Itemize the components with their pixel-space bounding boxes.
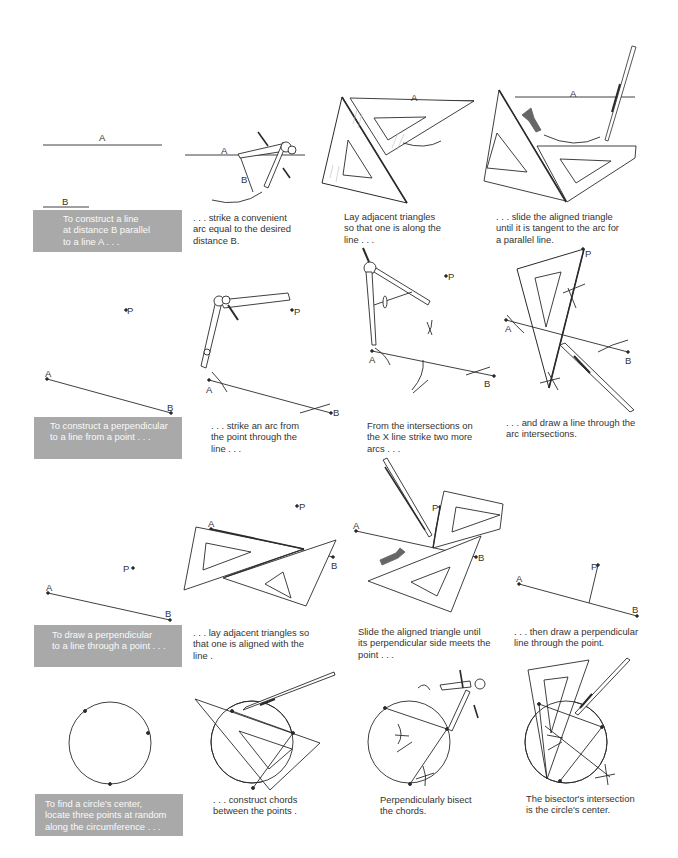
label-b: B: [62, 196, 68, 207]
label-a: A: [369, 354, 375, 365]
row1-given-lines: [43, 145, 162, 207]
row2-given: [46, 309, 173, 415]
caption-slide-perpendicular-side: Slide the aligned triangle until its per…: [358, 626, 490, 660]
caption-bisector-intersection: The bisector's intersection is the circl…: [526, 793, 635, 816]
caption-draw-through-intersections: . . . and draw a line through the arc in…: [506, 417, 635, 440]
label-a: A: [353, 520, 359, 531]
row4-construct-chords: [195, 672, 335, 790]
caption-two-more-arcs: From the intersections on the X line str…: [367, 420, 473, 454]
label-a: A: [45, 368, 51, 379]
label-p: P: [299, 501, 305, 512]
label-b: B: [167, 402, 173, 413]
row3-adjacent-triangles: [184, 505, 336, 606]
intro-box-perpendicular-through-point: To draw a perpendicular to a line throug…: [34, 625, 182, 667]
label-a: A: [221, 145, 227, 156]
row1-adjacent-triangles: [322, 97, 474, 203]
intro-box-circle-center: To find a circle's center, locate three …: [35, 794, 183, 836]
intro-box-parallel-line: To construct a line at distance B parall…: [33, 210, 182, 252]
label-a: A: [570, 88, 576, 99]
label-p: P: [591, 561, 597, 572]
label-a: A: [46, 582, 52, 593]
row2-draw-perpendicular: [505, 248, 634, 412]
label-b: B: [331, 560, 337, 571]
label-p: P: [448, 271, 454, 282]
label-p: P: [585, 248, 591, 259]
label-b: B: [625, 355, 631, 366]
label-b: B: [333, 407, 339, 418]
caption-lay-adjacent-triangles: Lay adjacent triangles so that one is al…: [344, 211, 441, 245]
row1-compass-arc: [185, 132, 305, 203]
row3-slide-triangle: [355, 458, 503, 612]
caption-strike-arc-through-line: . . . strike an arc from the point throu…: [211, 420, 299, 454]
caption-construct-chords: . . . construct chords between the point…: [213, 794, 297, 817]
label-b: B: [478, 552, 484, 563]
caption-align-triangles: . . . lay adjacent triangles so that one…: [193, 627, 309, 661]
intro-box-perpendicular-from-point: To construct a perpendicular to a line f…: [34, 417, 182, 459]
row2-two-arcs: [363, 248, 495, 393]
label-a: A: [505, 323, 511, 334]
label-b: B: [632, 604, 638, 615]
label-b: B: [484, 378, 490, 389]
caption-strike-arc-distance: . . . strike a convenient arc equal to t…: [193, 212, 291, 246]
label-a: A: [206, 384, 212, 395]
label-a: A: [516, 573, 522, 584]
label-a: A: [411, 92, 417, 103]
row4-circle-center: [525, 658, 630, 785]
label-a: A: [208, 518, 214, 529]
label-b: B: [165, 608, 171, 619]
label-p: P: [294, 306, 300, 317]
caption-slide-to-tangent: . . . slide the aligned triangle until i…: [496, 211, 619, 245]
row2-strike-arc: [201, 293, 332, 414]
label-a: A: [99, 132, 105, 143]
caption-draw-perpendicular: . . . then draw a perpendicular line thr…: [514, 626, 638, 649]
row4-circle-points: [69, 702, 151, 786]
row1-slide-triangle: [484, 46, 636, 202]
row4-bisect-chords: [368, 670, 485, 786]
label-p: P: [123, 563, 129, 574]
row3-perpendicular-result: [518, 564, 639, 618]
label-b: B: [241, 174, 247, 185]
label-p: P: [127, 305, 133, 316]
row3-given: [47, 567, 172, 622]
label-p: P: [432, 502, 438, 513]
caption-bisect-chords: Perpendicularly bisect the chords.: [380, 794, 472, 817]
